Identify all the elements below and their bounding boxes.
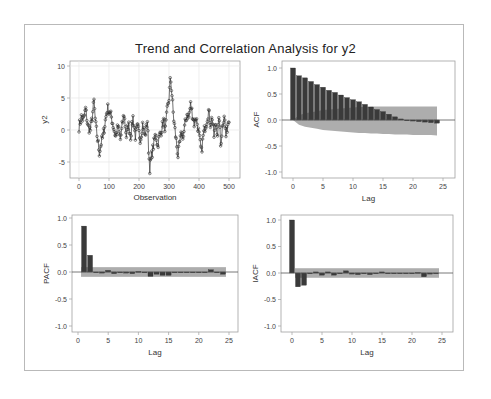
bar: [160, 272, 165, 275]
bar: [357, 102, 362, 120]
x-tick-label: 25: [225, 337, 233, 344]
x-tick-label: 0: [76, 337, 80, 344]
x-tick-label: 15: [379, 183, 387, 190]
pacf-plot: 0510152025-1.0-0.50.00.51.0LagPACF: [42, 215, 238, 358]
x-tick-label: 300: [163, 183, 175, 190]
plot-canvas: 0100200300400500-50510Observationy2 0510…: [0, 0, 491, 399]
x-tick-label: 15: [165, 337, 173, 344]
acf-plot: 0510152025-1.0-0.50.00.51.0LagACF: [252, 61, 455, 203]
x-tick-label: 0: [291, 183, 295, 190]
bar: [148, 272, 153, 276]
x-axis-label: Observation: [133, 193, 176, 202]
bar: [387, 114, 392, 120]
x-tick-label: 0: [77, 183, 81, 190]
bar: [369, 107, 374, 120]
bar: [82, 226, 87, 272]
bar: [363, 104, 368, 120]
bar: [345, 98, 350, 120]
y-tick-label: 0.0: [266, 270, 276, 277]
y-tick-label: -1.0: [265, 169, 277, 176]
x-tick-label: 5: [321, 183, 325, 190]
x-tick-label: 20: [408, 337, 416, 344]
x-tick-label: 10: [135, 337, 143, 344]
y-tick-label: -0.5: [265, 143, 277, 150]
x-tick-label: 100: [103, 183, 115, 190]
x-tick-label: 0: [290, 337, 294, 344]
x-tick-label: 500: [223, 183, 235, 190]
y-tick-label: -0.5: [55, 296, 67, 303]
bar: [302, 273, 307, 285]
y-tick-label: 0.0: [57, 269, 67, 276]
bar: [393, 117, 398, 120]
y-tick-label: 10: [57, 63, 65, 70]
bar: [435, 120, 440, 123]
y-axis-label: ACF: [252, 111, 261, 127]
y-tick-label: 0.5: [266, 243, 276, 250]
bar: [297, 76, 302, 120]
bar: [351, 100, 356, 120]
y-tick-label: 5: [61, 95, 65, 102]
x-tick-label: 200: [133, 183, 145, 190]
bar: [291, 68, 296, 120]
bar: [375, 110, 380, 120]
x-tick-label: 15: [378, 337, 386, 344]
y-axis-label: PACF: [42, 263, 51, 284]
x-axis-label: Lag: [148, 348, 161, 357]
bar: [303, 78, 308, 120]
x-tick-label: 5: [320, 337, 324, 344]
bar: [296, 273, 301, 287]
x-tick-label: 400: [193, 183, 205, 190]
x-axis-label: Lag: [362, 194, 375, 203]
y-tick-label: 1.0: [267, 65, 277, 72]
y-tick-label: -1.0: [264, 323, 276, 330]
y-tick-label: -5: [59, 159, 65, 166]
series-plot: 0100200300400500-50510Observationy2: [40, 61, 240, 202]
y-axis-label: y2: [40, 115, 49, 124]
bar: [290, 220, 295, 273]
bar: [166, 272, 171, 275]
bar: [422, 273, 427, 277]
x-tick-label: 5: [106, 337, 110, 344]
bar: [315, 85, 320, 120]
bar: [333, 92, 338, 120]
x-tick-label: 25: [438, 337, 446, 344]
y-tick-label: -1.0: [55, 323, 67, 330]
y-tick-label: 1.0: [57, 215, 67, 222]
bar: [381, 112, 386, 120]
x-tick-label: 25: [439, 183, 447, 190]
x-tick-label: 20: [195, 337, 203, 344]
x-tick-label: 10: [349, 183, 357, 190]
bar: [339, 95, 344, 120]
bar: [321, 87, 326, 120]
y-tick-label: 0.5: [57, 242, 67, 249]
y-axis-label: IACF: [251, 264, 260, 282]
y-tick-label: -0.5: [264, 296, 276, 303]
bar: [327, 90, 332, 120]
x-tick-label: 10: [348, 337, 356, 344]
x-tick-label: 20: [409, 183, 417, 190]
y-tick-label: 0.0: [267, 117, 277, 124]
y-tick-label: 0: [61, 127, 65, 134]
bar: [309, 82, 314, 120]
x-axis-label: Lag: [360, 348, 373, 357]
iacf-plot: 0510152025-1.0-0.50.00.51.0LagIACF: [251, 215, 453, 357]
y-tick-label: 0.5: [267, 91, 277, 98]
y-tick-label: 1.0: [266, 217, 276, 224]
bar: [88, 255, 93, 272]
